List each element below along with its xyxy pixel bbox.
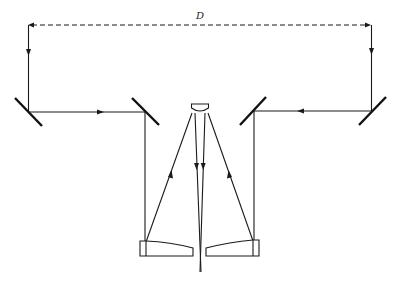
arrowhead-down-left: [26, 49, 31, 56]
central-convex-mirror: [192, 104, 209, 111]
left-output-ray: [195, 113, 201, 272]
arrowhead-down-center-right: [201, 163, 206, 170]
right-beam-path: [240, 25, 386, 242]
left-reflected-ray: [146, 113, 192, 242]
left-beam-path: [15, 25, 159, 242]
lower-right-concave-mirror: [206, 240, 259, 256]
distance-label: D: [195, 10, 204, 21]
arrowhead-right: [365, 23, 371, 28]
baseline-distance: D: [28, 10, 371, 28]
arrowhead-up-right: [227, 170, 232, 179]
optical-diagram: D: [0, 0, 396, 281]
right-output-ray: [200, 113, 205, 272]
lower-left-mirror-body: [140, 241, 193, 256]
lower-left-concave-mirror: [140, 241, 193, 256]
lower-right-mirror-body: [206, 240, 259, 256]
central-mirror-body: [192, 104, 209, 111]
arrowhead-down-right: [369, 48, 374, 55]
arrowhead-down-center-left: [194, 163, 199, 170]
arrowhead-left-right-beam: [297, 109, 304, 114]
arrowhead-right-left-beam: [97, 110, 104, 115]
